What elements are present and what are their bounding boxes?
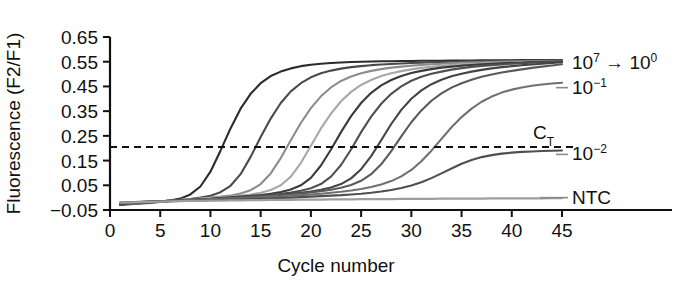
y-tick-label: 0.65 bbox=[61, 27, 98, 48]
x-tick-label: 35 bbox=[451, 220, 472, 241]
y-tick-label: 0.15 bbox=[61, 151, 98, 172]
x-tick-label: 40 bbox=[501, 220, 522, 241]
y-tick-label: 0.25 bbox=[61, 126, 98, 147]
y-tick-label: 0.35 bbox=[61, 101, 98, 122]
y-axis-title: Fluorescence (F2/F1) bbox=[3, 33, 24, 215]
annotation-dilution-range: 107 → 100 bbox=[572, 51, 658, 73]
y-tick-label: 0.55 bbox=[61, 52, 98, 73]
qpcr-amplification-plot: 0.650.550.450.350.250.150.05−0.050510152… bbox=[0, 0, 679, 284]
x-tick-label: 20 bbox=[300, 220, 321, 241]
x-tick-label: 45 bbox=[551, 220, 572, 241]
curve-10-2 bbox=[120, 150, 562, 202]
annotation-dilution-1e-2: 10−2 bbox=[572, 142, 607, 164]
x-tick-label: 0 bbox=[105, 220, 116, 241]
x-tick-label: 10 bbox=[200, 220, 221, 241]
y-tick-label: 0.05 bbox=[61, 175, 98, 196]
x-tick-label: 15 bbox=[250, 220, 271, 241]
chart-figure: 0.650.550.450.350.250.150.05−0.050510152… bbox=[0, 0, 679, 284]
x-tick-label: 25 bbox=[351, 220, 372, 241]
ct-threshold-label: CT bbox=[533, 122, 555, 149]
series-annotations: 107 → 10010−110−2NTCCT bbox=[533, 51, 658, 208]
y-tick-label: −0.05 bbox=[50, 200, 98, 221]
annotation-ntc: NTC bbox=[572, 187, 611, 208]
y-tick-label: 0.45 bbox=[61, 76, 98, 97]
annotation-dilution-1e-1: 10−1 bbox=[572, 76, 607, 98]
series-curves bbox=[120, 60, 562, 205]
x-tick-label: 5 bbox=[155, 220, 166, 241]
curve-103 bbox=[120, 61, 562, 204]
x-tick-label: 30 bbox=[401, 220, 422, 241]
x-axis-title: Cycle number bbox=[277, 255, 395, 276]
